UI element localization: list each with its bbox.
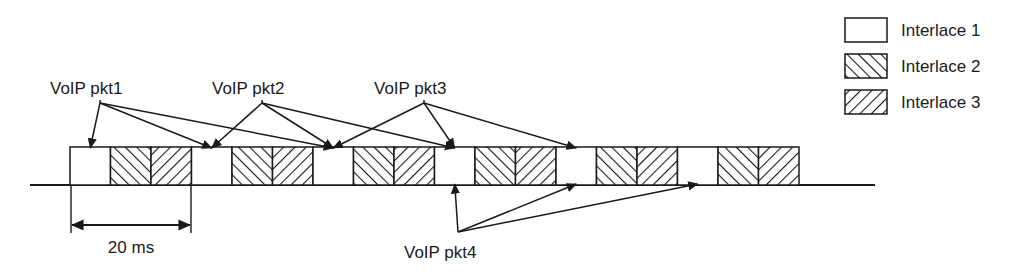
slot-cell-interlace1 — [70, 147, 111, 185]
slot-cell-interlace1 — [313, 147, 354, 185]
slot-cell-interlace2 — [354, 147, 395, 185]
slot-cell-interlace2 — [597, 147, 638, 185]
packet-arrow-pkt3-1 — [333, 103, 424, 148]
packet-label-pkt4: VoIP pkt4 — [404, 243, 476, 262]
slot-cell-interlace3 — [516, 147, 557, 185]
slot-cell-interlace3 — [394, 147, 435, 185]
slot-cell-interlace2 — [718, 147, 759, 185]
legend: Interlace 1Interlace 2Interlace 3 — [845, 18, 980, 114]
packet-arrow-pkt4-3 — [458, 184, 698, 232]
slot-cell-interlace1 — [556, 147, 597, 185]
legend-label-interlace3: Interlace 3 — [901, 93, 980, 112]
packet-arrow-pkt4-2 — [458, 184, 576, 232]
dimension-20ms-group: 20 ms — [71, 186, 191, 257]
packet-arrow-pkt1-2 — [100, 103, 212, 148]
slot-cell-group — [70, 147, 799, 185]
legend-swatch-interlace3 — [845, 90, 887, 114]
slot-cell-interlace2 — [232, 147, 273, 185]
packet-label-pkt1: VoIP pkt1 — [50, 79, 122, 98]
packet-label-pkt2: VoIP pkt2 — [212, 79, 284, 98]
slot-cell-interlace2 — [475, 147, 516, 185]
dimension-label: 20 ms — [108, 238, 154, 257]
slot-cell-interlace3 — [273, 147, 314, 185]
packet-arrow-pkt4-1 — [455, 184, 458, 232]
slot-cell-interlace1 — [435, 147, 476, 185]
legend-swatch-interlace2 — [845, 54, 887, 78]
packet-arrow-pkt3-3 — [424, 103, 576, 148]
legend-swatch-interlace1 — [845, 18, 887, 42]
packet-label-pkt3: VoIP pkt3 — [374, 79, 446, 98]
voip-interlace-timing-diagram: VoIP pkt1VoIP pkt2VoIP pkt3VoIP pkt4 20 … — [0, 0, 1015, 280]
packet-arrow-pkt2-3 — [262, 103, 455, 148]
slot-cell-interlace3 — [759, 147, 800, 185]
slot-cell-interlace3 — [151, 147, 192, 185]
packet-arrow-pkt1-1 — [90, 103, 100, 148]
slot-cell-interlace1 — [678, 147, 719, 185]
slot-cell-interlace1 — [192, 147, 233, 185]
legend-label-interlace1: Interlace 1 — [901, 21, 980, 40]
slot-cell-interlace3 — [637, 147, 678, 185]
diagram-canvas: VoIP pkt1VoIP pkt2VoIP pkt3VoIP pkt4 20 … — [0, 0, 1015, 280]
legend-label-interlace2: Interlace 2 — [901, 57, 980, 76]
slot-cell-interlace2 — [111, 147, 152, 185]
